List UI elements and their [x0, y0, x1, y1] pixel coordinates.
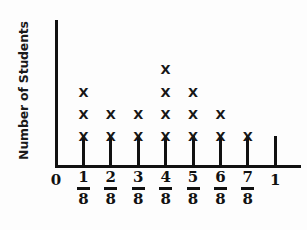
- fraction-numerator: 5: [187, 170, 200, 185]
- fraction-denominator: 8: [104, 192, 117, 207]
- x-mark: X: [159, 108, 173, 121]
- x-axis-label: 48: [152, 170, 180, 208]
- x-axis-label: 0: [42, 170, 70, 189]
- fraction-numerator: 6: [214, 170, 227, 185]
- x-mark: X: [213, 130, 227, 143]
- x-axis-label: 78: [234, 170, 262, 208]
- fraction-label: 68: [214, 170, 227, 207]
- x-mark: X: [159, 63, 173, 76]
- fraction-label: 58: [187, 170, 200, 207]
- x-mark: X: [186, 108, 200, 121]
- x-axis-line: [55, 165, 301, 168]
- fraction-denominator: 8: [77, 192, 90, 207]
- x-mark: X: [213, 108, 227, 121]
- y-axis-title: Number of Students: [16, 11, 31, 171]
- x-axis-label: 28: [97, 170, 125, 208]
- x-mark: X: [159, 86, 173, 99]
- fraction-denominator: 8: [159, 192, 172, 207]
- fraction-numerator: 7: [241, 170, 254, 185]
- fraction-denominator: 8: [241, 192, 254, 207]
- x-mark: X: [241, 130, 255, 143]
- x-mark: X: [76, 86, 90, 99]
- fraction-denominator: 8: [187, 192, 200, 207]
- fraction-denominator: 8: [214, 192, 227, 207]
- x-mark: X: [186, 130, 200, 143]
- x-axis-label-value: 1: [270, 171, 280, 189]
- y-axis-line: [55, 20, 58, 168]
- x-axis-label: 58: [179, 170, 207, 208]
- x-mark: X: [131, 108, 145, 121]
- x-mark: X: [76, 130, 90, 143]
- x-axis-label: 68: [206, 170, 234, 208]
- x-axis-label: 18: [69, 170, 97, 208]
- x-mark: X: [186, 86, 200, 99]
- fraction-numerator: 4: [159, 170, 172, 185]
- fraction-label: 38: [132, 170, 145, 207]
- x-mark: X: [104, 130, 118, 143]
- x-axis-label: 1: [261, 170, 289, 189]
- fraction-label: 18: [77, 170, 90, 207]
- x-mark: X: [131, 130, 145, 143]
- x-mark: X: [104, 108, 118, 121]
- fraction-numerator: 3: [132, 170, 145, 185]
- line-plot-chart: Number of Students XXXXXXXXXXXXXXXXX 018…: [0, 0, 307, 230]
- fraction-numerator: 2: [104, 170, 117, 185]
- fraction-numerator: 1: [77, 170, 90, 185]
- fraction-label: 78: [241, 170, 254, 207]
- x-axis-label-value: 0: [51, 171, 61, 189]
- x-axis-tick: [274, 136, 277, 166]
- fraction-label: 48: [159, 170, 172, 207]
- x-mark: X: [76, 108, 90, 121]
- fraction-denominator: 8: [132, 192, 145, 207]
- x-axis-label: 38: [124, 170, 152, 208]
- x-mark: X: [159, 130, 173, 143]
- fraction-label: 28: [104, 170, 117, 207]
